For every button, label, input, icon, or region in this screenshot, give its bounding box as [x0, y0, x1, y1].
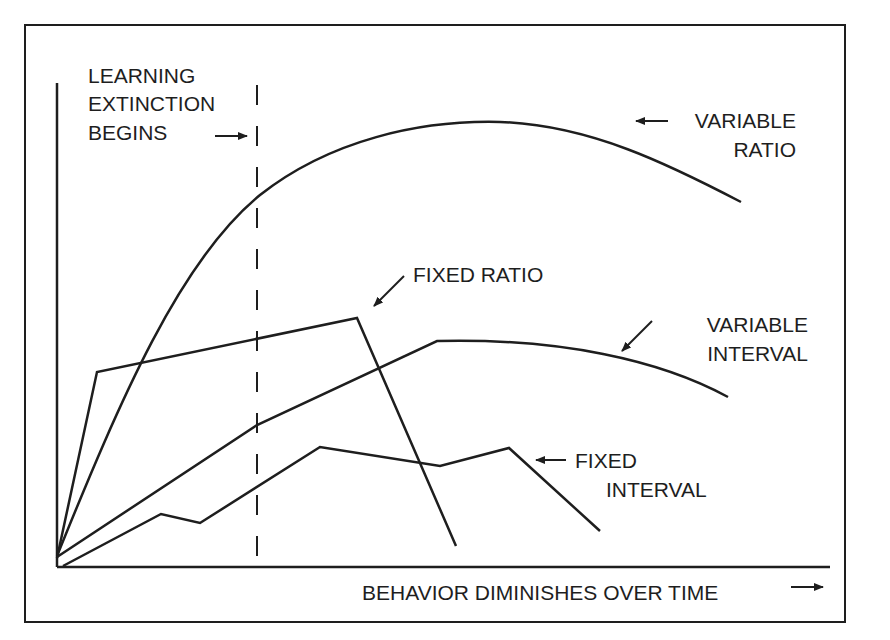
series-fixed-ratio	[57, 318, 456, 558]
x-axis-label: BEHAVIOR DIMINISHES OVER TIME	[362, 581, 718, 604]
vi-arrow-icon	[622, 321, 652, 351]
vr-label-2: RATIO	[733, 138, 796, 161]
fr-label: FIXED RATIO	[413, 263, 543, 286]
extinction-label-3: BEGINS	[88, 121, 167, 144]
vi-label-2: INTERVAL	[707, 342, 808, 365]
fi-label-2: INTERVAL	[606, 478, 707, 501]
extinction-label-1: LEARNING	[88, 64, 195, 87]
series-fixed-interval	[63, 447, 600, 566]
vr-label-1: VARIABLE	[695, 109, 796, 132]
extinction-label-2: EXTINCTION	[88, 92, 215, 115]
vi-label-1: VARIABLE	[707, 313, 808, 336]
fi-label-1: FIXED	[575, 449, 637, 472]
extinction-chart: LEARNING EXTINCTION BEGINS VARIABLE RATI…	[0, 0, 890, 640]
fr-arrow-icon	[374, 276, 404, 306]
